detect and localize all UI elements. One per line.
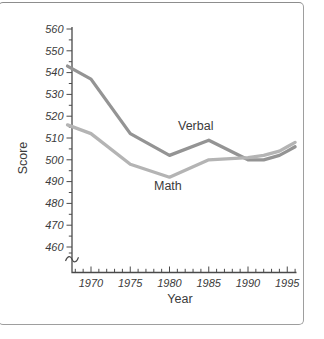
series-label-verbal: Verbal xyxy=(178,119,213,133)
y-tick-label: 560 xyxy=(45,23,64,35)
y-tick-label: 550 xyxy=(45,45,64,57)
x-tick-label: 1970 xyxy=(79,277,104,289)
y-tick-label: 470 xyxy=(45,219,64,231)
y-tick-label: 510 xyxy=(45,132,64,144)
x-tick-label: 1980 xyxy=(157,277,182,289)
x-tick-label: 1990 xyxy=(236,277,261,289)
sat-scores-line-chart: 4604704804905005105205305405505601970197… xyxy=(0,0,324,339)
y-axis-title: Score xyxy=(16,138,30,178)
x-axis-title: Year xyxy=(144,292,216,306)
x-tick-label: 1995 xyxy=(275,277,300,289)
y-tick-label: 530 xyxy=(45,88,64,100)
y-tick-label: 500 xyxy=(45,154,64,166)
y-tick-label: 490 xyxy=(45,175,64,187)
figure: 4604704804905005105205305405505601970197… xyxy=(0,0,324,339)
y-tick-label: 540 xyxy=(45,66,64,78)
y-tick-label: 460 xyxy=(45,241,64,253)
y-tick-label: 480 xyxy=(45,197,64,209)
x-tick-label: 1975 xyxy=(118,277,143,289)
y-tick-label: 520 xyxy=(45,110,64,122)
verbal-line xyxy=(68,66,296,160)
series-label-math: Math xyxy=(154,179,182,193)
x-tick-label: 1985 xyxy=(197,277,222,289)
